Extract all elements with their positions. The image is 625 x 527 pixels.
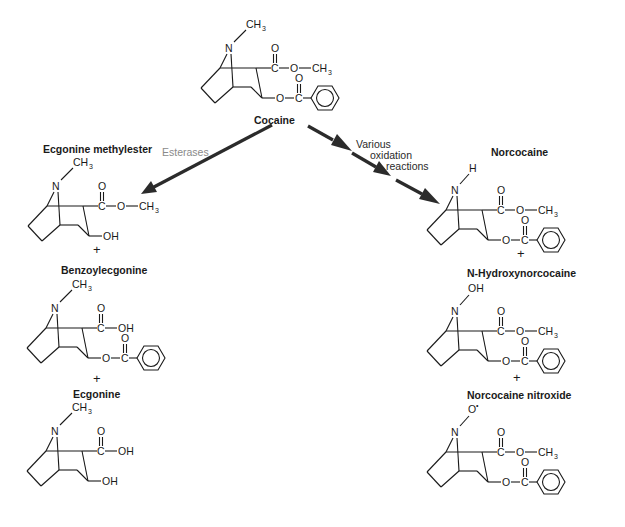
molecule-norcocaine-nitroxide: N O • — [427, 402, 565, 494]
molecule-ecgonine: N CH 3 — [27, 401, 134, 487]
svg-text:N: N — [451, 305, 459, 317]
plus-sign: + — [93, 371, 101, 386]
svg-text:N: N — [51, 302, 59, 314]
svg-text:CH: CH — [73, 156, 88, 168]
compound-name-cocaine: Cocaine — [254, 114, 295, 126]
svg-text:OH: OH — [468, 282, 484, 294]
pathway-label-line3: reactions — [386, 160, 429, 172]
compound-name-n-hydroxynorcocaine: N-Hydroxynorcocaine — [467, 267, 576, 279]
compound-name-norcocaine-nitroxide: Norcocaine nitroxide — [467, 389, 572, 401]
svg-text:CH: CH — [72, 401, 87, 413]
compound-name-norcocaine: Norcocaine — [491, 146, 548, 158]
cocaine-metabolism-diagram: C O O CH 3 OH OH O C O — [0, 0, 625, 527]
plus-sign: + — [517, 246, 525, 261]
svg-text:3: 3 — [88, 408, 92, 415]
molecule-n-hydroxynorcocaine: N OH — [427, 282, 565, 373]
svg-text:H: H — [469, 162, 477, 174]
radical-dot: • — [476, 402, 479, 409]
svg-text:N: N — [451, 426, 459, 438]
svg-text:CH: CH — [246, 18, 261, 30]
molecule-norcocaine: N H — [427, 162, 565, 252]
esterase-arrow — [141, 125, 272, 194]
svg-text:3: 3 — [262, 25, 266, 32]
compound-name-benzoylecgonine: Benzoylecgonine — [61, 264, 148, 276]
enzyme-label-esterases: Esterases — [162, 146, 209, 158]
molecule-ecgonine-methylester: N CH 3 — [28, 156, 159, 242]
compound-name-ecgonine-methylester: Ecgonine methylester — [43, 143, 152, 155]
molecule-cocaine: N CH 3 — [201, 18, 339, 110]
svg-text:3: 3 — [88, 285, 92, 292]
svg-text:N: N — [52, 180, 60, 192]
plus-sign: + — [93, 242, 101, 257]
molecule-benzoylecgonine: N CH 3 — [27, 278, 165, 370]
svg-text:N: N — [51, 425, 59, 437]
svg-text:CH: CH — [72, 278, 87, 290]
svg-text:O: O — [468, 403, 476, 415]
plus-sign: + — [513, 370, 521, 385]
compound-name-ecgonine: Ecgonine — [73, 388, 120, 400]
svg-text:3: 3 — [89, 163, 93, 170]
svg-text:N: N — [451, 184, 459, 196]
atom-n: N — [225, 42, 233, 54]
